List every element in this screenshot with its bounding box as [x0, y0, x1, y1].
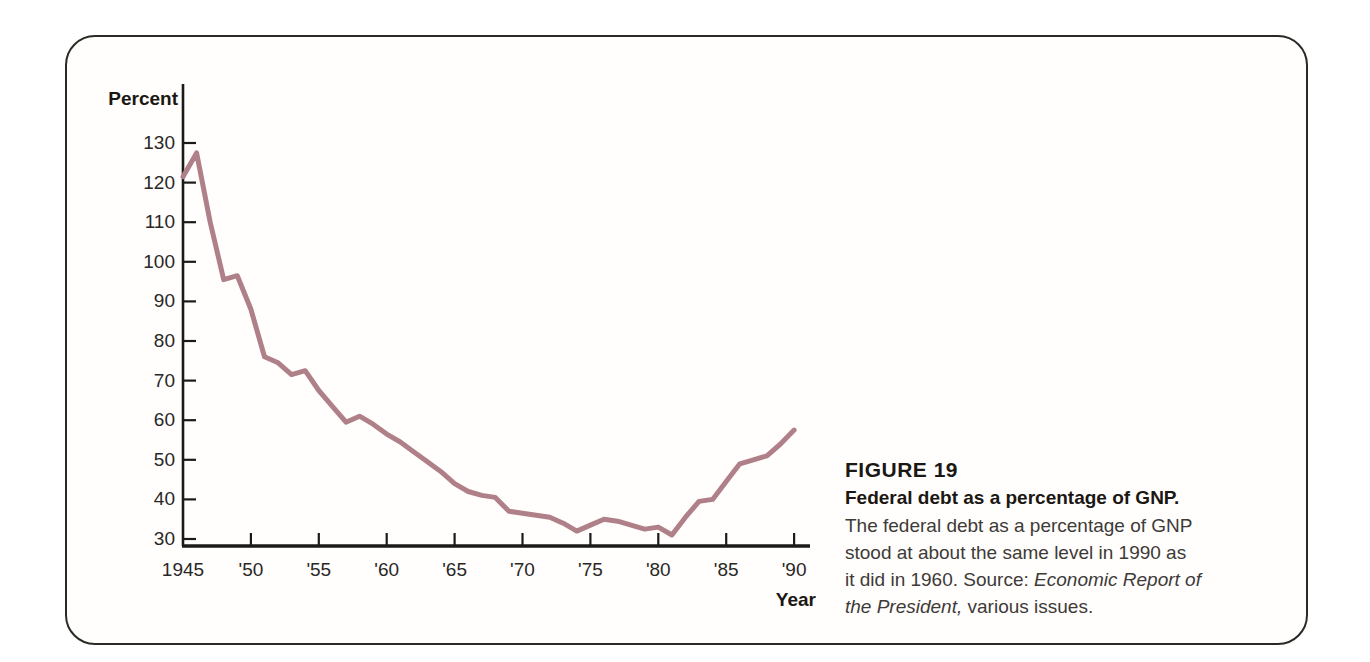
x-tick-label: '60 — [374, 559, 399, 580]
caption-text-segment: The federal debt as a percentage of GNP — [845, 515, 1193, 536]
y-axis-title: Percent — [108, 88, 178, 109]
x-tick-label: '70 — [510, 559, 535, 580]
caption-text-segment: Source: — [963, 569, 1034, 590]
figure-description: The federal debt as a percentage of GNPs… — [845, 512, 1285, 620]
figure-caption: FIGURE 19 Federal debt as a percentage o… — [845, 458, 1285, 620]
caption-line: the President, various issues. — [845, 593, 1285, 620]
y-tick-label: 110 — [145, 211, 175, 232]
textbook-figure-page: 304050607080901001101201301945'50'55'60'… — [0, 0, 1370, 662]
caption-text-segment: various issues. — [962, 596, 1093, 617]
figure-number: FIGURE 19 — [845, 458, 1285, 482]
y-tick-label: 130 — [143, 132, 175, 153]
y-tick-label: 90 — [154, 290, 175, 311]
y-tick-label: 70 — [154, 370, 175, 391]
y-tick-label: 100 — [143, 251, 175, 272]
x-axis-title: Year — [776, 589, 817, 610]
y-tick-label: 60 — [154, 409, 175, 430]
y-tick-label: 40 — [154, 488, 175, 509]
caption-text-segment: it did in 1960. — [845, 569, 963, 590]
x-tick-label: '50 — [239, 559, 264, 580]
x-tick-label: '90 — [782, 559, 807, 580]
caption-text-segment: the President, — [845, 596, 962, 617]
y-tick-label: 80 — [154, 330, 175, 351]
debt-percentage-line — [183, 153, 794, 535]
caption-text-segment: Economic Report of — [1034, 569, 1201, 590]
y-tick-label: 120 — [143, 172, 175, 193]
caption-text-segment: stood at about the same level in 1990 as — [845, 542, 1186, 563]
x-tick-label: '65 — [442, 559, 467, 580]
x-tick-label: '80 — [646, 559, 671, 580]
figure-title: Federal debt as a percentage of GNP. — [845, 485, 1285, 511]
x-tick-label: 1945 — [162, 559, 204, 580]
caption-line: stood at about the same level in 1990 as — [845, 539, 1285, 566]
y-tick-label: 30 — [154, 528, 175, 549]
y-tick-label: 50 — [154, 449, 175, 470]
caption-line: The federal debt as a percentage of GNP — [845, 512, 1285, 539]
caption-line: it did in 1960. Source: Economic Report … — [845, 566, 1285, 593]
x-tick-label: '55 — [306, 559, 331, 580]
x-tick-label: '85 — [714, 559, 739, 580]
x-tick-label: '75 — [578, 559, 603, 580]
